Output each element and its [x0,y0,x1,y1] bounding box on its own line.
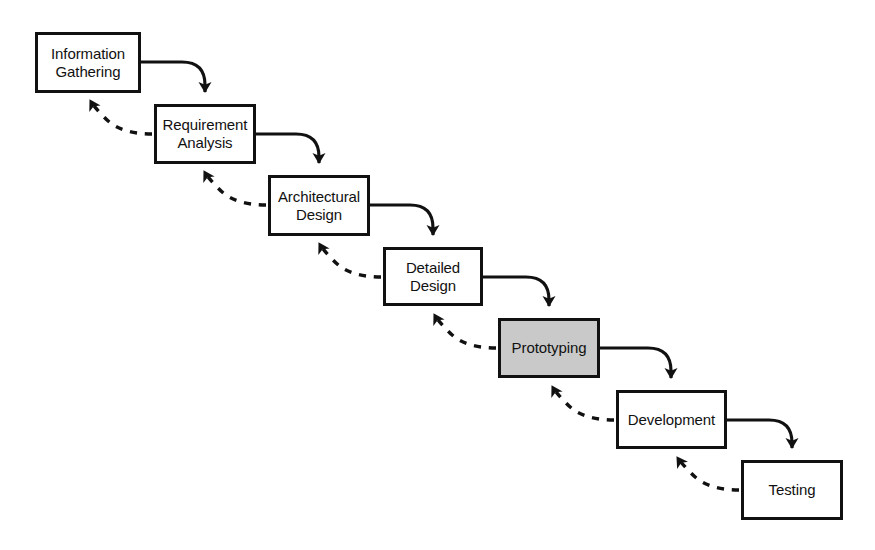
node-label: Architectural Design [275,188,363,223]
node-label: Development [625,411,718,429]
node-requirement-analysis[interactable]: Requirement Analysis [154,104,256,164]
edge-prototyping-to-development [600,348,671,378]
edge-testing-to-development [677,457,739,490]
edge-requirement-analysis-to-architectural-design [256,134,319,163]
edge-detailed-design-to-prototyping [483,277,549,306]
node-prototyping[interactable]: Prototyping [498,318,600,378]
node-information-gathering[interactable]: Information Gathering [35,32,141,93]
node-label: Requirement Analysis [160,116,251,151]
node-label: Detailed Design [403,259,463,294]
node-architectural-design[interactable]: Architectural Design [268,175,370,236]
edge-development-to-testing [727,420,792,448]
waterfall-diagram-canvas: Information Gathering Requirement Analys… [0,0,875,550]
edge-development-to-prototyping [552,386,614,420]
node-testing[interactable]: Testing [741,460,843,520]
edge-architectural-design-to-detailed-design [370,205,433,235]
node-label: Prototyping [509,339,590,357]
node-detailed-design[interactable]: Detailed Design [383,247,483,306]
edge-architectural-design-to-requirement-analysis [204,171,266,205]
edge-prototyping-to-detailed-design [434,314,496,348]
node-label: Testing [766,481,819,499]
edge-information-gathering-to-requirement-analysis [141,62,205,92]
edge-requirement-analysis-to-information-gathering [90,100,152,134]
node-development[interactable]: Development [616,390,727,449]
edge-detailed-design-to-architectural-design [319,243,381,277]
node-label: Information Gathering [48,45,128,80]
